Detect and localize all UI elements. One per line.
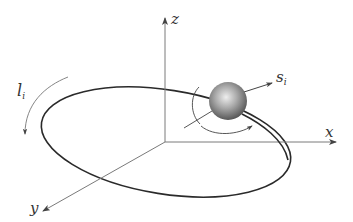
spin-rotation-arrow-icon — [201, 126, 252, 134]
x-axis-label: x — [325, 123, 334, 141]
y-axis-label: y — [29, 199, 39, 217]
spin-label: si — [276, 68, 287, 87]
spin-axis-back — [184, 111, 212, 128]
orbital-motion-arc — [25, 77, 68, 134]
spin-vector — [244, 83, 272, 92]
orbital-arrow-icon — [25, 77, 68, 134]
particle-sphere — [209, 82, 247, 120]
y-axis — [43, 142, 165, 211]
orbit-spin-diagram: z x y li si — [0, 0, 353, 222]
orbital-angular-momentum-label: li — [17, 81, 25, 101]
coordinate-axes — [43, 18, 336, 211]
z-axis-label: z — [170, 10, 179, 28]
